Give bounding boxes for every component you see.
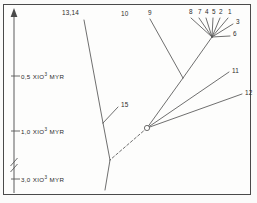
tip-label-5: 5 [212,8,216,15]
branch-crown-stem [183,37,212,78]
axis-tick-label-0: 0,5 XIO3 MYR [21,72,64,80]
branch-1314-upper [84,20,103,123]
tip-label-1: 1 [228,8,232,15]
branch-1314-lower [105,160,110,190]
tip-label-13-14: 13,14 [62,9,79,16]
branch-15 [103,107,118,123]
branch-6 [212,36,230,37]
tip-label-8: 8 [189,8,193,15]
tip-label-4: 4 [205,8,209,15]
branch-root-dashed [110,128,147,160]
tip-label-7: 7 [198,8,202,15]
tip-label-11: 11 [232,67,239,74]
branch-1 [212,18,228,37]
axis-tick-label-2: 3,0 XIO3 MYR [21,175,64,183]
tip-label-6: 6 [233,30,237,37]
time-axis [11,8,21,193]
branch-group [84,18,242,190]
axis-tick-label-1: 1,0 XIO3 MYR [21,127,64,135]
tip-label-10: 10 [121,10,129,17]
tip-label-15: 15 [121,101,129,108]
branch-12 [147,94,242,128]
tip-label-12: 12 [245,89,253,96]
tip-label-2: 2 [219,8,223,15]
tip-label-3: 3 [236,18,240,25]
node-group [144,125,149,130]
tip-label-9: 9 [148,9,152,16]
node-marker-root [144,125,149,130]
branch-11 [147,72,229,128]
branch-9 [150,19,183,78]
phylogenetic-tree-figure: 0,5 XIO3 MYR1,0 XIO3 MYR3,0 XIO3 MYR 123… [0,0,257,203]
branch-mid-stem [147,78,183,128]
axis-arrowhead [11,8,18,17]
branch-1314-stem [103,123,110,160]
